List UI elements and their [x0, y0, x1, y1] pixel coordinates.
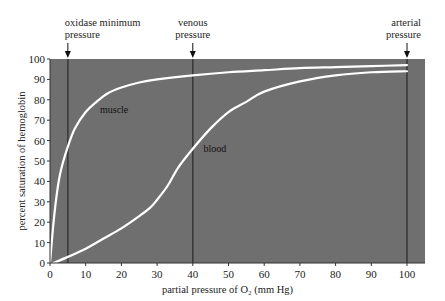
x-axis-label: partial pressure of O₂ (mm Hg) — [162, 284, 294, 296]
x-tick-label: 20 — [116, 268, 128, 280]
x-tick-label: 30 — [152, 268, 164, 280]
y-axis-label: percent saturation of hemoglobin — [16, 91, 27, 231]
oxygen-dissociation-chart: 0102030405060708090100 01020304050607080… — [0, 0, 445, 301]
y-tick-label: 80 — [34, 94, 46, 106]
plot-area — [50, 59, 425, 263]
x-tick-label: 70 — [294, 268, 306, 280]
y-tick-label: 20 — [34, 216, 46, 228]
y-tick-label: 100 — [29, 53, 46, 65]
y-tick-label: 90 — [34, 73, 46, 85]
arrow-down-icon — [65, 51, 71, 58]
x-tick-label: 50 — [223, 268, 235, 280]
y-tick-label: 50 — [34, 155, 46, 167]
x-tick-label: 10 — [80, 268, 92, 280]
muscle-label: muscle — [100, 104, 129, 115]
y-tick-label: 60 — [34, 135, 46, 147]
x-tick-label: 60 — [259, 268, 271, 280]
annotation-label: pressure — [65, 29, 100, 40]
y-tick-label: 0 — [40, 257, 46, 269]
x-tick-label: 0 — [47, 268, 53, 280]
y-tick-label: 40 — [34, 175, 46, 187]
arrow-down-icon — [190, 51, 196, 58]
x-tick-label: 100 — [399, 268, 416, 280]
annotation-label: pressure — [386, 29, 421, 40]
y-tick-label: 70 — [34, 114, 46, 126]
x-axis: 0102030405060708090100 — [47, 263, 425, 280]
x-tick-label: 80 — [330, 268, 342, 280]
blood-label: blood — [204, 143, 227, 154]
y-axis: 0102030405060708090100 — [29, 53, 51, 269]
annotation-label: pressure — [175, 29, 210, 40]
annotation-label: arterial — [391, 17, 421, 28]
arrow-down-icon — [404, 51, 410, 58]
y-tick-label: 30 — [34, 196, 46, 208]
annotation-label: oxidase minimum — [65, 17, 141, 28]
annotation-label: venous — [178, 17, 208, 28]
x-tick-label: 90 — [366, 268, 378, 280]
pressure-annotations: oxidase minimumpressurevenouspressureart… — [65, 17, 421, 58]
y-tick-label: 10 — [34, 237, 46, 249]
x-tick-label: 40 — [187, 268, 199, 280]
